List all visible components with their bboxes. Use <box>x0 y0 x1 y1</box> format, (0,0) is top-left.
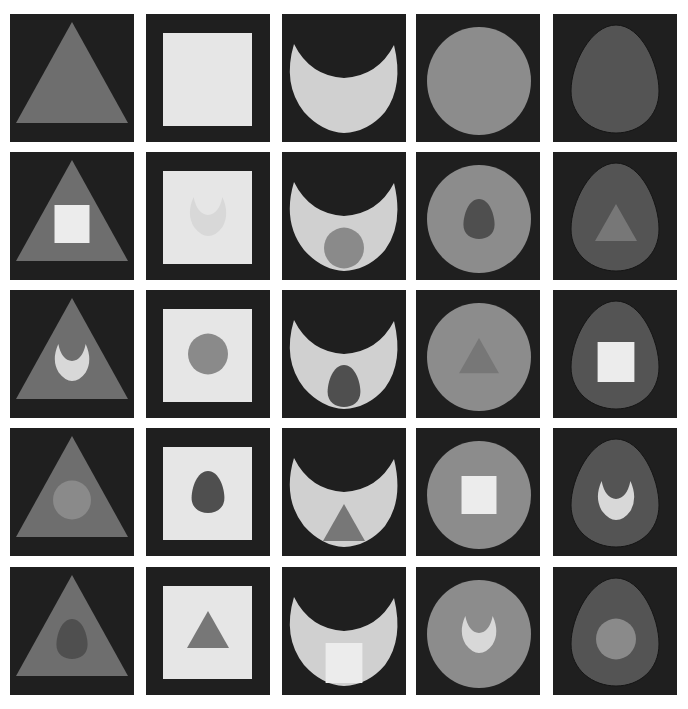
tile-circle-with-square <box>416 428 540 556</box>
triangle-icon <box>16 22 128 123</box>
tile-square <box>146 14 270 142</box>
tile-crescent-with-triangle <box>282 428 406 556</box>
circle-icon <box>427 27 531 135</box>
tile-egg-with-triangle <box>553 152 677 280</box>
tile-circle-with-crescent <box>416 567 540 695</box>
tile-triangle-with-crescent <box>10 290 134 418</box>
tile-square-with-egg <box>146 428 270 556</box>
tile-crescent-with-egg <box>282 290 406 418</box>
tile-triangle-with-square <box>10 152 134 280</box>
inner-circle-icon <box>188 334 228 375</box>
tile-egg <box>553 14 677 142</box>
egg-icon <box>571 25 659 133</box>
tile-crescent-with-circle <box>282 152 406 280</box>
inner-circle-icon <box>324 228 364 269</box>
triangle-icon <box>16 298 128 399</box>
tile-triangle-with-egg <box>10 567 134 695</box>
tile-triangle-with-circle <box>10 428 134 556</box>
tile-crescent <box>282 14 406 142</box>
shape-grid <box>0 0 688 709</box>
inner-square-icon <box>326 643 363 683</box>
inner-square-icon <box>598 342 635 382</box>
inner-square-icon <box>55 205 90 243</box>
inner-circle-icon <box>596 619 636 660</box>
egg-icon <box>571 439 659 547</box>
tile-square-with-triangle <box>146 567 270 695</box>
tile-triangle <box>10 14 134 142</box>
crescent-icon <box>290 44 398 133</box>
tile-square-with-crescent <box>146 152 270 280</box>
tile-square-with-circle <box>146 290 270 418</box>
inner-circle-icon <box>53 481 91 520</box>
tile-circle-with-egg <box>416 152 540 280</box>
tile-egg-with-crescent <box>553 428 677 556</box>
tile-circle <box>416 14 540 142</box>
tile-egg-with-circle <box>553 567 677 695</box>
tile-egg-with-square <box>553 290 677 418</box>
inner-square-icon <box>462 476 497 514</box>
tile-circle-with-triangle <box>416 290 540 418</box>
tile-crescent-with-square <box>282 567 406 695</box>
square-icon <box>163 33 252 126</box>
